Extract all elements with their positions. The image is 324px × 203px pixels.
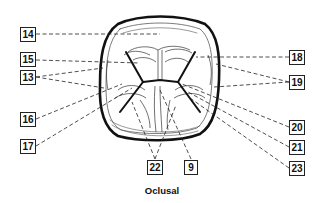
label-14: 14	[20, 27, 36, 42]
label-17: 17	[20, 139, 36, 154]
label-20: 20	[289, 120, 305, 135]
label-15: 15	[20, 52, 36, 67]
label-18: 18	[289, 50, 305, 65]
figure-caption: Oclusal	[132, 185, 192, 196]
label-9: 9	[184, 160, 198, 175]
label-13: 13	[20, 70, 36, 85]
label-19: 19	[289, 75, 305, 90]
label-23: 23	[289, 161, 305, 176]
label-21: 21	[289, 140, 305, 155]
label-16: 16	[20, 112, 36, 127]
leader-lines	[36, 34, 289, 168]
label-22: 22	[147, 160, 163, 175]
tooth-outline	[100, 17, 219, 141]
